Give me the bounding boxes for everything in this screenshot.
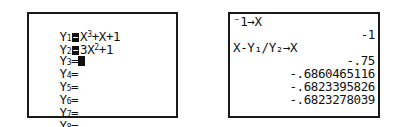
y1-entry[interactable]: Y1X3+X+1 [31,15,174,28]
y-editor-screen: Y1X3+X+1 Y23X2+1 Y3= Y4= Y5= Y6= Y7= Y8= [27,12,178,118]
y2-expr-rest: +1 [99,42,113,57]
home-line-result: -.6823278039 [233,93,375,106]
home-screen: ⁻1→X -1 X-Y₁/Y₂→X -.75 -.6860465116 -.68… [228,12,380,118]
y8-label: Y [60,118,67,127]
selected-equals-icon[interactable] [72,33,79,42]
home-line-input: ⁻1→X [233,15,375,28]
text-cursor [78,56,85,66]
selected-equals-icon[interactable] [72,46,79,55]
y8-equals[interactable]: = [71,118,78,127]
